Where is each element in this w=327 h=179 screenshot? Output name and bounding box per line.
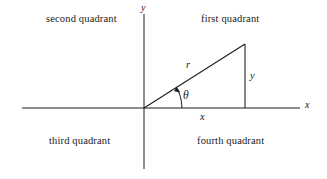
adjacent-side-label: x <box>200 111 205 122</box>
quadrant-diagram: second quadrant first quadrant third qua… <box>0 0 327 179</box>
opposite-side-label: y <box>250 70 255 81</box>
radius-label: r <box>186 59 190 70</box>
quadrant-label-fourth: fourth quadrant <box>197 135 264 146</box>
quadrant-label-third: third quadrant <box>49 135 110 146</box>
diagram-canvas <box>0 0 327 179</box>
quadrant-label-first: first quadrant <box>201 13 259 24</box>
theta-angle-label: θ <box>183 89 189 101</box>
y-axis-label: y <box>141 2 145 13</box>
quadrant-label-second: second quadrant <box>46 13 117 24</box>
hypotenuse-line <box>144 44 245 108</box>
x-axis-label: x <box>305 99 309 110</box>
